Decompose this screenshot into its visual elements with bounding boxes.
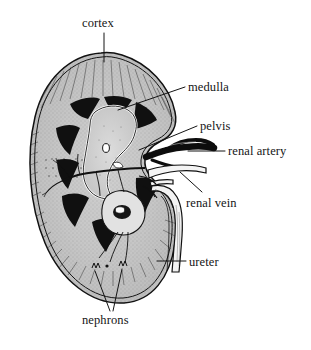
label-cortex: cortex bbox=[82, 17, 114, 30]
label-medulla: medulla bbox=[188, 81, 229, 94]
kidney-diagram-figure: cortex medulla pelvis renal artery renal… bbox=[0, 0, 311, 350]
label-ureter: ureter bbox=[189, 256, 219, 269]
label-renal-artery: renal artery bbox=[228, 145, 286, 158]
renal-sinus-lower bbox=[102, 191, 145, 235]
label-nephrons: nephrons bbox=[82, 314, 129, 327]
label-renal-vein: renal vein bbox=[186, 197, 237, 210]
label-pelvis: pelvis bbox=[200, 120, 230, 133]
kidney-illustration bbox=[0, 0, 311, 350]
